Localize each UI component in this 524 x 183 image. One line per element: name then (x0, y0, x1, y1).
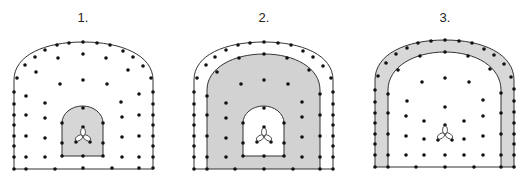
trefoil-source-icon (436, 126, 453, 140)
panel-2 (192, 40, 335, 171)
panel-3-shaded-ring (375, 40, 514, 167)
panel-1 (12, 40, 155, 171)
panel-3-middle-nodes (386, 50, 503, 157)
panel-3 (373, 38, 516, 169)
diagram-figure (0, 0, 524, 183)
panel-3-interior-nodes (404, 76, 485, 157)
panel-3-middle-boundary (388, 52, 501, 167)
